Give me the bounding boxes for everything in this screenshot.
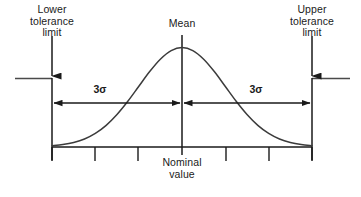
lower-tolerance-limit-label: Lower tolerance limit [8, 4, 96, 39]
sigma-left-label: 3σ [82, 83, 118, 95]
process-capability-diagram: Lower tolerance limit Upper tolerance li… [0, 0, 361, 197]
sigma-right-label: 3σ [238, 83, 274, 95]
nominal-value-label: Nominal value [146, 157, 218, 180]
upper-tolerance-limit-label: Upper tolerance limit [268, 4, 356, 39]
mean-label: Mean [152, 18, 212, 30]
